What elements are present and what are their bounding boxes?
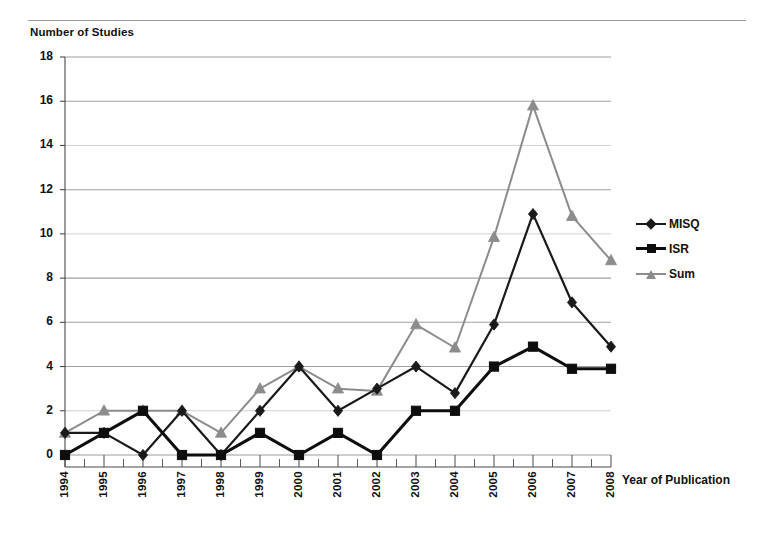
legend-swatch-isr — [636, 242, 666, 256]
y-tick-label: 8 — [27, 270, 53, 284]
y-tick-label: 12 — [27, 182, 53, 196]
chart-legend: MISQ ISR Sum — [636, 211, 700, 286]
x-tick-label: 2004 — [448, 471, 460, 498]
x-tick-label: 2003 — [409, 471, 421, 498]
figure-container: Number of Studies 024681012141618 199419… — [0, 0, 757, 537]
diamond-icon — [645, 218, 656, 229]
x-axis-title: Year of Publication — [622, 473, 730, 487]
legend-swatch-misq — [636, 217, 666, 231]
y-tick-label: 10 — [27, 226, 53, 240]
x-tick-label: 2002 — [370, 471, 382, 498]
x-tick-label: 2007 — [565, 471, 577, 498]
legend-item-misq: MISQ — [636, 211, 700, 236]
x-tick-label: 1997 — [175, 471, 187, 498]
x-tick-label: 1996 — [136, 471, 148, 498]
legend-label-isr: ISR — [669, 243, 689, 255]
y-tick-label: 14 — [27, 137, 53, 151]
x-tick-label: 1995 — [97, 471, 109, 498]
x-tick-label: 2005 — [487, 471, 499, 498]
legend-label-misq: MISQ — [669, 218, 700, 230]
x-tick-label: 2001 — [331, 471, 343, 498]
y-tick-label: 0 — [27, 447, 53, 461]
y-tick-label: 4 — [27, 359, 53, 373]
y-tick-label: 6 — [27, 314, 53, 328]
series-group — [59, 100, 616, 461]
legend-item-isr: ISR — [636, 236, 700, 261]
x-tick-label: 2000 — [292, 471, 304, 498]
x-tick-label: 1998 — [214, 471, 226, 498]
y-tick-label: 18 — [27, 49, 53, 63]
y-tick-label: 2 — [27, 403, 53, 417]
x-tick-group — [65, 455, 611, 467]
square-icon — [647, 244, 656, 253]
y-tick-group — [60, 57, 65, 455]
legend-item-sum: Sum — [636, 261, 700, 286]
x-tick-label: 2006 — [526, 471, 538, 498]
legend-label-sum: Sum — [669, 268, 695, 280]
x-tick-label: 1999 — [253, 471, 265, 498]
x-tick-label: 2008 — [604, 471, 616, 498]
triangle-icon — [646, 270, 656, 279]
x-tick-label: 1994 — [58, 471, 70, 498]
legend-swatch-sum — [636, 267, 666, 281]
y-tick-label: 16 — [27, 93, 53, 107]
